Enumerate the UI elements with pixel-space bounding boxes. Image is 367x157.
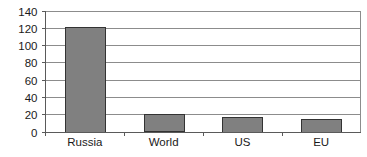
category-label: EU <box>313 136 329 148</box>
y-tick-label: 40 <box>25 92 38 104</box>
y-tick-label: 100 <box>18 40 37 52</box>
bar-world <box>145 115 185 132</box>
category-label: US <box>234 136 250 148</box>
bar-us <box>223 118 263 133</box>
bar-chart: 020406080100120140 RussiaWorldUSEU <box>0 0 367 157</box>
bar-eu <box>302 120 342 133</box>
y-tick-label: 20 <box>25 109 38 121</box>
chart-canvas: 020406080100120140 RussiaWorldUSEU <box>0 0 367 157</box>
chart-background <box>0 0 367 157</box>
y-tick-label: 120 <box>18 23 37 35</box>
category-label: Russia <box>67 136 103 148</box>
y-tick-label: 60 <box>25 75 38 87</box>
y-tick-label: 80 <box>25 57 38 69</box>
y-tick-label: 0 <box>31 127 37 139</box>
y-tick-label: 140 <box>18 6 37 18</box>
category-label: World <box>149 136 179 148</box>
bar-russia <box>66 28 106 133</box>
